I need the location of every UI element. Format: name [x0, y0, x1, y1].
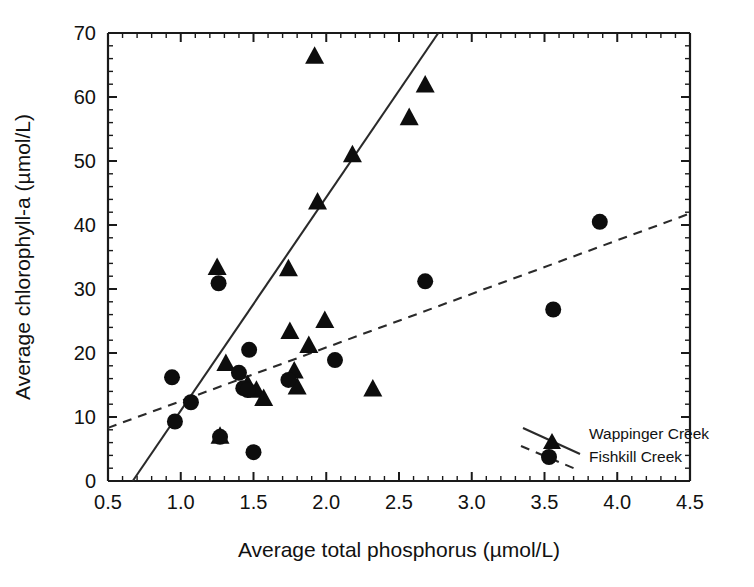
legend-marker-triangle [543, 433, 561, 449]
y-tick-label: 0 [85, 470, 96, 492]
y-tick-label: 60 [74, 86, 96, 108]
y-tick-label: 40 [74, 214, 96, 236]
x-tick-label: 4.5 [676, 491, 704, 513]
data-point-circle [327, 352, 343, 368]
y-tick-label: 70 [74, 22, 96, 44]
x-axis-ticks [108, 33, 690, 481]
legend-label-fishkill: Fishkill Creek [589, 448, 682, 465]
data-point-circle [167, 413, 183, 429]
data-point-circle [212, 429, 228, 445]
x-tick-label: 0.5 [94, 491, 122, 513]
data-point-circle [592, 214, 608, 230]
data-point-triangle [208, 257, 227, 275]
data-point-circle [417, 273, 433, 289]
data-point-circle [280, 372, 296, 388]
x-axis-title: Average total phosphorus (µmol/L) [238, 538, 560, 561]
y-tick-label: 20 [74, 342, 96, 364]
y-tick-label: 30 [74, 278, 96, 300]
data-point-triangle [363, 379, 382, 397]
data-point-circle [241, 342, 257, 358]
y-tick-label: 10 [74, 406, 96, 428]
x-tick-label: 1.0 [167, 491, 195, 513]
x-tick-label: 2.5 [385, 491, 413, 513]
x-axis-tick-labels: 0.51.01.52.02.53.03.54.04.5 [94, 491, 704, 513]
data-point-circle [164, 369, 180, 385]
data-point-triangle [400, 108, 419, 126]
data-point-circle [183, 394, 199, 410]
data-point-circle [211, 275, 227, 291]
data-point-triangle [416, 75, 435, 93]
x-tick-label: 3.5 [531, 491, 559, 513]
regression-line-wappinger [133, 33, 439, 481]
legend: Wappinger Creek Fishkill Creek [521, 425, 709, 470]
regression-lines [108, 33, 690, 481]
data-point-triangle [299, 335, 318, 353]
y-axis-ticks [108, 33, 690, 481]
scatter-plot-figure: 0.51.01.52.02.53.03.54.04.5 010203040506… [0, 0, 754, 587]
data-point-circle [231, 365, 247, 381]
x-tick-label: 2.0 [312, 491, 340, 513]
y-tick-label: 50 [74, 150, 96, 172]
plot-canvas: 0.51.01.52.02.53.03.54.04.5 010203040506… [0, 0, 754, 587]
legend-label-wappinger: Wappinger Creek [589, 425, 709, 442]
legend-marker-circle [541, 449, 557, 465]
data-point-circle [240, 382, 256, 398]
data-point-triangle [280, 321, 299, 339]
axis-frame [108, 33, 690, 481]
x-tick-label: 1.5 [240, 491, 268, 513]
x-tick-label: 3.0 [458, 491, 486, 513]
x-tick-label: 4.0 [603, 491, 631, 513]
data-point-circle [246, 444, 262, 460]
y-axis-title: Average chlorophyll-a (µmol/L) [11, 114, 34, 400]
data-point-triangle [305, 46, 324, 64]
data-point-triangle [315, 311, 334, 329]
data-point-circle [545, 301, 561, 317]
y-axis-tick-labels: 010203040506070 [74, 22, 96, 492]
